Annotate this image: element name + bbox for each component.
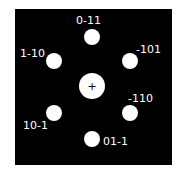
- spot-label: 0-11: [76, 15, 101, 26]
- plus-icon: +: [79, 81, 105, 92]
- spot-label: 01-1: [103, 136, 128, 147]
- center-spot: +: [79, 73, 105, 99]
- spot-1-10: [46, 53, 62, 69]
- spot--110: [122, 105, 138, 121]
- spot-label: 1-10: [20, 48, 45, 59]
- spot-0-11: [84, 29, 100, 45]
- spot-label: -101: [136, 44, 161, 55]
- spot-label: -110: [128, 93, 153, 104]
- spot-01-1: [84, 131, 100, 147]
- spot-10-1: [46, 105, 62, 121]
- spot-label: 10-1: [23, 120, 48, 131]
